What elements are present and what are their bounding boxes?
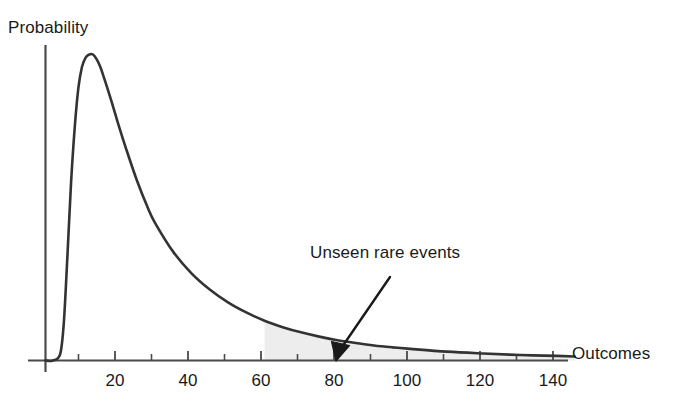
density-curve [46,54,575,361]
x-axis-label: Outcomes [572,344,650,364]
y-axis-label: Probability [8,18,88,38]
x-tick-label-120: 120 [458,371,502,391]
x-tick-label-80: 80 [312,371,356,391]
probability-distribution-chart: Probability Outcomes 20 40 60 80 100 120… [0,0,687,411]
x-tick-label-40: 40 [166,371,210,391]
annotation-label: Unseen rare events [310,243,460,263]
x-tick-label-100: 100 [385,371,429,391]
x-tick-label-20: 20 [93,371,137,391]
x-tick-label-60: 60 [239,371,283,391]
x-tick-label-140: 140 [531,371,575,391]
